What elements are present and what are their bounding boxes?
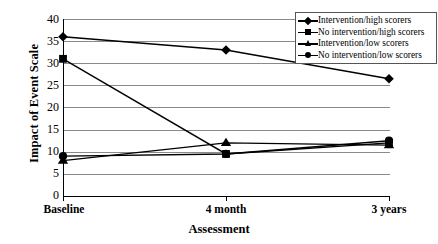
diamond-marker-icon: [298, 15, 318, 26]
legend-label: Intervention/low scorers: [318, 38, 409, 49]
legend-label: No intervention/low scorers: [318, 50, 422, 61]
square-marker-icon: [298, 27, 318, 38]
triangle-marker-icon: [298, 38, 318, 49]
legend-label: No intervention/high scorers: [318, 27, 424, 38]
circle-marker-icon: [298, 50, 318, 61]
chart-figure: Impact of Event Scale 40 35 30 25 20 15 …: [0, 0, 438, 244]
legend-label: Intervention/high scorers: [318, 15, 411, 26]
legend-item-no-intervention-low[interactable]: No intervention/low scorers: [298, 50, 434, 62]
legend-item-intervention-low[interactable]: Intervention/low scorers: [298, 38, 434, 50]
legend: Intervention/high scorers No interventio…: [295, 12, 437, 64]
legend-item-no-intervention-high[interactable]: No intervention/high scorers: [298, 27, 434, 39]
legend-item-intervention-high[interactable]: Intervention/high scorers: [298, 15, 434, 27]
